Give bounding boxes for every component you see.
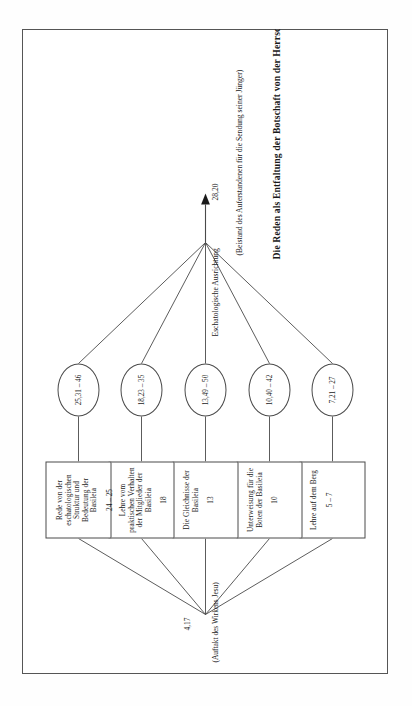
target-reference-label: 28,20 xyxy=(210,183,219,200)
target-arrowhead xyxy=(201,193,210,204)
ellipse-discourse-2[interactable]: 10,40 – 42 xyxy=(248,363,290,416)
ellipse-discourse-3[interactable]: 13,49 – 50 xyxy=(184,363,226,416)
target-note-label: (Beistand des Auferstandenen für die Sen… xyxy=(234,69,243,255)
node-box-discourse-5[interactable]: Rede von der eschatologischen Struktur u… xyxy=(45,461,111,538)
node-title-discourse-4: Lehre vom praktischen Verhalten der Mitg… xyxy=(118,462,152,537)
node-box-discourse-4[interactable]: Lehre vom praktischen Verhalten der Mitg… xyxy=(108,461,174,538)
node-reference-discourse-2: 10 xyxy=(270,496,279,503)
node-reference-discourse-3: 13 xyxy=(206,496,215,503)
node-box-discourse-2[interactable]: Unterweisung für die Boten der Basileia … xyxy=(236,461,302,538)
ellipse-discourse-5[interactable]: 25,31 – 46 xyxy=(57,363,99,416)
node-box-discourse-3[interactable]: Die Gleichnisse der Basileia 13 xyxy=(172,461,238,538)
link-ellipse-4-to-target xyxy=(141,242,205,363)
connector-lines xyxy=(22,29,388,674)
link-root-to-discourse-4 xyxy=(141,538,205,614)
link-root-to-discourse-5 xyxy=(78,538,205,614)
root-note-label: (Auftakt des Wirkens Jesu) xyxy=(210,582,219,662)
node-title-discourse-5: Rede von der eschatologischen Struktur u… xyxy=(55,462,98,537)
root-reference-label: 4,17 xyxy=(182,617,191,630)
node-reference-discourse-4: 18 xyxy=(159,496,168,503)
diagram-caption: Die Reden als Entfaltung der Botschaft v… xyxy=(270,29,281,259)
ellipse-discourse-1[interactable]: 7,21 – 27 xyxy=(311,363,353,416)
ellipse-label-discourse-2: 10,40 – 42 xyxy=(265,374,273,405)
diagram-canvas: 4,17 (Auftakt des Wirkens Jesu) Lehre au… xyxy=(22,29,388,674)
ellipse-label-discourse-4: 18,23 – 35 xyxy=(137,374,145,405)
ellipse-label-discourse-1: 7,21 – 27 xyxy=(328,376,336,403)
node-box-discourse-1[interactable]: Lehre auf dem Berg 5 – 7 xyxy=(299,461,365,538)
eschatological-axis-label: Eschatologische Ausrichtung xyxy=(210,248,219,336)
link-ellipse-5-to-target xyxy=(78,242,205,363)
ellipse-label-discourse-3: 13,49 – 50 xyxy=(201,374,209,405)
node-title-discourse-3: Die Gleichnisse der Basileia xyxy=(182,462,199,537)
diagram-rotation-viewport: 4,17 (Auftakt des Wirkens Jesu) Lehre au… xyxy=(22,29,388,674)
node-title-discourse-1: Lehre auf dem Berg xyxy=(309,465,318,533)
link-ellipse-1-to-target xyxy=(205,242,332,363)
node-reference-discourse-1: 5 – 7 xyxy=(325,492,334,507)
node-reference-discourse-5: 24 – 25 xyxy=(105,489,114,511)
link-root-to-discourse-1 xyxy=(205,538,332,614)
node-title-discourse-2: Unterweisung für die Boten der Basileia xyxy=(246,462,263,537)
ellipse-discourse-4[interactable]: 18,23 – 35 xyxy=(120,363,162,416)
ellipse-label-discourse-5: 25,31 – 46 xyxy=(74,374,82,405)
page-canvas: 4,17 (Auftakt des Wirkens Jesu) Lehre au… xyxy=(0,0,412,706)
